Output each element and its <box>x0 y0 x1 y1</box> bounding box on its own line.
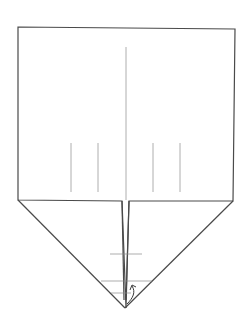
center-slit-right <box>126 201 129 300</box>
left-diagonal-edge <box>18 200 125 308</box>
origami-diagram <box>0 0 247 327</box>
right-diagonal-edge <box>125 201 233 308</box>
